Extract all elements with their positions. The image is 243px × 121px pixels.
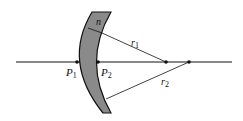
point-p2 <box>96 60 100 64</box>
radius-r2-line <box>106 62 189 99</box>
label-n: n <box>96 16 101 27</box>
point-p1 <box>75 60 79 64</box>
label-p1: P1 <box>65 66 77 80</box>
center-r2 <box>187 60 191 64</box>
label-p2: P2 <box>100 66 112 80</box>
center-r1 <box>164 60 168 64</box>
lens-diagram: n r1 r2 P1 P2 <box>0 0 243 121</box>
label-r2: r2 <box>161 76 169 89</box>
label-r1: r1 <box>131 37 139 50</box>
